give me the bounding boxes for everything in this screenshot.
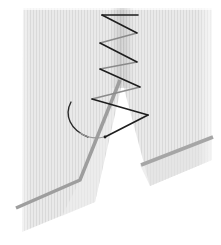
sewing-illustration: [0, 0, 221, 245]
center-fold-shade: [110, 8, 134, 88]
needle-point-dot: [104, 136, 107, 139]
fade-right: [198, 0, 221, 245]
